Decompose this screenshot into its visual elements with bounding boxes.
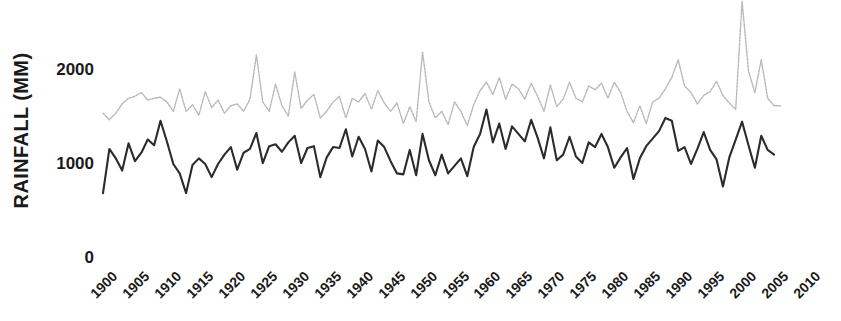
series-line-upper-series	[103, 1, 780, 125]
series-line-lower-series	[103, 109, 774, 193]
rainfall-chart: RAINFALL (MM) 010002000 1900190519101915…	[0, 0, 841, 321]
series-layer	[103, 1, 780, 193]
